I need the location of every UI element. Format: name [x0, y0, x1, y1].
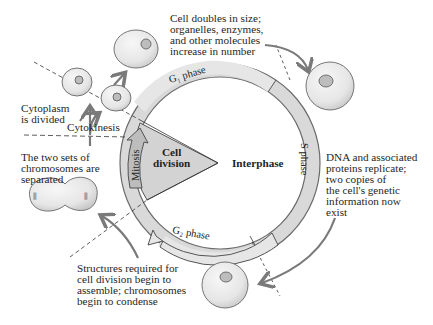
cell-g2-phase [202, 262, 248, 308]
cell-s-phase [306, 62, 354, 110]
cytokinesis-arrow-left [80, 112, 86, 121]
s-annotation: DNA and associated proteins replicate; t… [326, 152, 417, 218]
cell-g1-large [114, 30, 158, 68]
interphase-label: Interphase [232, 158, 284, 169]
cytoplasm-annotation: Cytoplasm is divided [21, 103, 69, 125]
ring-label-mitosis: Mitosis [130, 149, 141, 181]
cell-daughter-upper [62, 68, 92, 96]
cell-daughter-lower [101, 85, 131, 111]
ring-label-s: S phase [299, 143, 310, 176]
svg-text:⫼: ⫼ [33, 192, 37, 201]
g1-annotation: Cell doubles in size; organelles, enzyme… [170, 13, 263, 57]
cell-division-label: Cell division [153, 147, 190, 169]
mitosis-annotation: The two sets of chromosomes are separate… [21, 152, 100, 185]
svg-text:⫼: ⫼ [84, 192, 88, 201]
cytokinesis-label: Cytokinesis [67, 122, 120, 133]
g2-annotation: Structures required for cell division be… [77, 263, 186, 307]
